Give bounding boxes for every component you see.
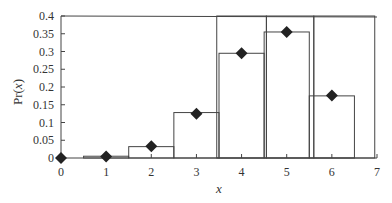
x-tick-label: 1 xyxy=(103,165,109,179)
diamond-marker xyxy=(100,151,112,163)
probability-chart: 00.050.10.150.20.250.30.350.401234567 Pr… xyxy=(0,0,392,203)
histogram-bar-4 xyxy=(264,32,309,158)
y-axis-label: Pr(x) xyxy=(10,79,25,105)
y-tick-label: 0 xyxy=(48,151,54,165)
y-tick-label: 0.15 xyxy=(33,98,54,112)
y-tick-label: 0.2 xyxy=(39,80,54,94)
x-axis-label: x xyxy=(215,181,222,196)
histogram-bar-3 xyxy=(219,53,264,158)
x-tick-label: 6 xyxy=(329,165,335,179)
x-tick-label: 3 xyxy=(193,165,199,179)
histogram-bar-5 xyxy=(309,96,354,158)
x-tick-label: 0 xyxy=(58,165,64,179)
y-tick-label: 0.1 xyxy=(39,116,54,130)
y-tick-label: 0.25 xyxy=(33,62,54,76)
diamond-marker xyxy=(55,152,67,164)
x-tick-label: 4 xyxy=(239,165,245,179)
x-tick-label: 5 xyxy=(284,165,290,179)
x-tick-label: 2 xyxy=(148,165,154,179)
y-tick-label: 0.3 xyxy=(39,45,54,59)
y-tick-label: 0.05 xyxy=(33,133,54,147)
plot-area: 00.050.10.150.20.250.30.350.401234567 xyxy=(33,9,380,179)
y-tick-label: 0.4 xyxy=(39,9,54,23)
x-tick-label: 7 xyxy=(374,165,380,179)
y-tick-label: 0.35 xyxy=(33,27,54,41)
